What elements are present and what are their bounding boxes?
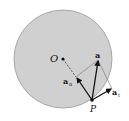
acceleration-diagram: O P a a n a t <box>0 0 129 121</box>
label-o: O <box>50 53 58 64</box>
label-p: P <box>89 104 97 114</box>
label-at-subscript: t <box>118 92 120 98</box>
label-an: a <box>63 76 68 86</box>
label-a: a <box>95 50 100 60</box>
point-o-dot <box>61 57 64 60</box>
point-p-dot <box>90 98 94 102</box>
label-at: a <box>112 87 117 97</box>
